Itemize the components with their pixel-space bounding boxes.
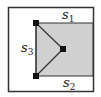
vertex-bottom-left bbox=[33, 73, 39, 79]
vertex-top-left bbox=[33, 20, 39, 26]
diagram-svg: s1 s2 s3 bbox=[0, 0, 101, 97]
diagram-canvas: s1 s2 s3 bbox=[0, 0, 101, 97]
vertex-middle bbox=[60, 46, 66, 52]
